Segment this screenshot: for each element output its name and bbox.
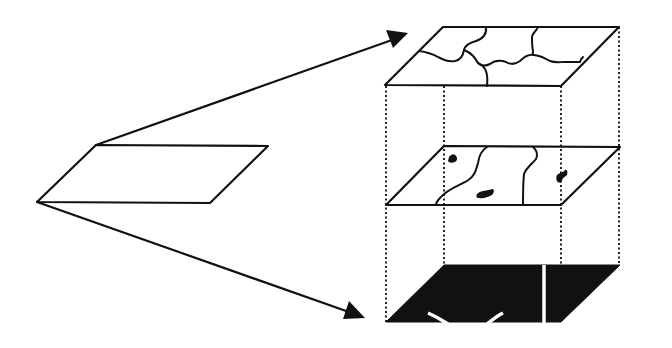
source-plane	[37, 145, 268, 203]
patch-1	[448, 154, 457, 162]
arrow-to-bottom-layer	[37, 202, 365, 319]
bottom-layer	[386, 265, 620, 324]
patch-2	[476, 189, 493, 198]
middle-layer	[386, 146, 620, 205]
arrowhead-icon	[386, 30, 408, 48]
arrow-to-top-layer	[96, 30, 408, 145]
top-layer	[385, 27, 619, 86]
arrowhead-icon	[343, 301, 365, 319]
layer-stack-diagram	[0, 0, 672, 348]
